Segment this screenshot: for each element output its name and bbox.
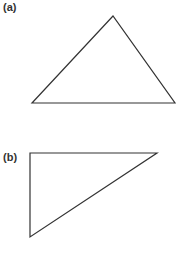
triangle-b xyxy=(30,153,157,237)
diagram-canvas xyxy=(0,0,188,256)
triangle-a xyxy=(32,16,175,103)
